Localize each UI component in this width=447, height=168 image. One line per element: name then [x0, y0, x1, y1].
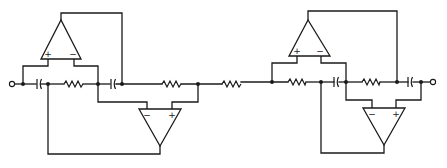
capacitor-c2 — [111, 79, 116, 89]
capacitor-c3 — [334, 77, 339, 87]
opamp-u1-plus: + — [44, 49, 52, 59]
opamp-u2-minus: − — [143, 110, 151, 120]
capacitor-c1 — [37, 79, 42, 89]
opamp-u3-minus: − — [316, 46, 324, 56]
opamp-u3-plus: + — [293, 46, 301, 56]
right-section: + − − + — [241, 11, 436, 153]
resistor-r3 — [222, 81, 241, 87]
resistor-r2 — [162, 81, 181, 87]
resistor-r5 — [362, 79, 380, 85]
output-terminal — [430, 79, 435, 84]
input-terminal — [9, 81, 14, 86]
opamp-u2: − + — [48, 84, 198, 154]
circuit-diagram: + − − + — [0, 0, 447, 168]
opamp-u4-plus: + — [392, 109, 400, 119]
opamp-u4: − + — [321, 82, 421, 153]
capacitor-c4 — [408, 77, 413, 87]
opamp-u2-plus: + — [168, 110, 176, 120]
opamp-u1-minus: − — [69, 49, 77, 59]
opamp-u3: + − — [272, 11, 397, 82]
opamp-u4-minus: − — [368, 109, 376, 119]
resistor-r1 — [64, 81, 83, 87]
left-section: + − − + — [9, 13, 222, 154]
resistor-r4 — [288, 79, 306, 85]
opamp-u1: + − — [23, 13, 122, 84]
